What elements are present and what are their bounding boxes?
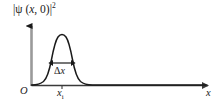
y-axis-label: |ψ (x, 0)|2 [13, 4, 56, 16]
wave-packet-figure: |ψ (x, 0)|2 O x Δx xi [0, 0, 224, 104]
y-axis-label-middle: , 0)| [34, 3, 52, 15]
x-i-label: xi [57, 88, 64, 99]
delta-x-label: Δx [54, 66, 65, 76]
wave-packet-curve [32, 35, 207, 85]
y-axis-label-exponent: 2 [52, 1, 56, 10]
delta-x-variable: x [60, 65, 64, 76]
figure-canvas [0, 0, 224, 104]
x-axis-label: x [206, 88, 211, 99]
y-axis-label-prefix: |ψ ( [13, 3, 29, 15]
x-i-subscript: i [62, 93, 64, 101]
origin-label: O [20, 86, 28, 97]
